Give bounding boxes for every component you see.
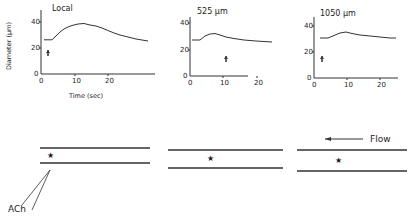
site-marker-1050: ★ — [335, 156, 342, 165]
chart-title-525: 525 µm — [197, 7, 228, 16]
1050-axes — [314, 17, 398, 78]
local-axes — [41, 10, 155, 74]
525-axes — [190, 17, 248, 76]
site-marker-local: ★ — [47, 151, 54, 160]
ytick: 20 — [180, 46, 189, 54]
xtick: 20 — [377, 81, 386, 89]
chart-title-1050: 1050 µm — [320, 9, 356, 18]
xtick: 0 — [312, 81, 316, 89]
1050-curve — [320, 32, 396, 38]
vessel-1050 — [297, 150, 407, 171]
ytick: 40 — [180, 19, 189, 27]
ytick: 20 — [304, 48, 313, 56]
xtick: 10 — [72, 77, 81, 85]
chart-title-local: Local — [52, 4, 73, 13]
flow-label: Flow — [370, 134, 391, 144]
xtick: 10 — [344, 81, 353, 89]
ytick: 0 — [307, 74, 311, 82]
vessel-525 — [168, 150, 283, 168]
525-curve — [192, 34, 272, 43]
ytick: 40 — [31, 18, 40, 26]
x-axis-label: Time (sec) — [69, 92, 103, 100]
xtick: 20 — [105, 77, 114, 85]
ytick: 20 — [31, 44, 40, 52]
xtick: 20 — [254, 79, 263, 87]
ach-pipette — [22, 170, 50, 210]
xtick: 0 — [188, 79, 192, 87]
flow-arrow-icon — [325, 137, 331, 141]
local-curve — [44, 24, 148, 42]
figure-canvas — [0, 0, 416, 223]
site-marker-525: ★ — [207, 154, 214, 163]
xtick: 0 — [39, 77, 43, 85]
ytick: 0 — [183, 72, 187, 80]
ytick: 0 — [34, 70, 38, 78]
vessel-local — [40, 148, 150, 163]
ach-label: ACh — [8, 204, 26, 214]
ytick: 40 — [304, 22, 313, 30]
xtick: 10 — [220, 79, 229, 87]
y-axis-label: Diameter (µm) — [5, 22, 13, 70]
